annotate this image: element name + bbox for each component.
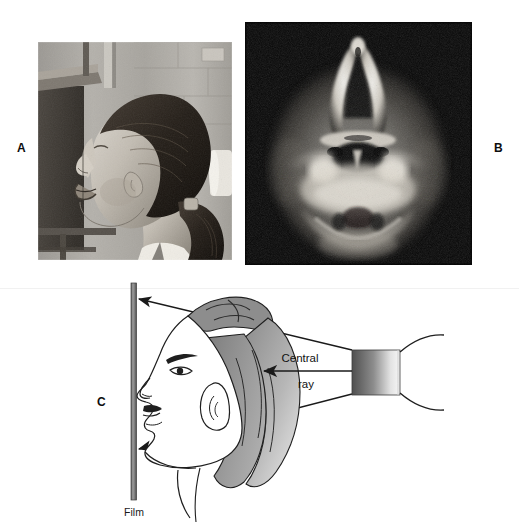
panel-label-a: A — [17, 141, 26, 155]
film-plate — [131, 283, 137, 500]
panel-label-c: C — [97, 395, 106, 409]
beam-geometry-diagram: Central ray Film — [0, 272, 519, 529]
head-profile-drawing — [137, 297, 300, 522]
submentovertex-radiograph — [245, 22, 472, 265]
panel-label-b: B — [494, 141, 503, 155]
central-ray-label-line1: Central — [281, 352, 318, 364]
film-label: Film — [124, 506, 144, 518]
panel-a-photograph — [38, 42, 232, 260]
xray-tube-head — [352, 335, 444, 410]
panel-b-radiograph — [245, 22, 472, 265]
figure-canvas: Central ray Film A B C — [0, 0, 519, 529]
central-ray-label-line2: ray — [298, 378, 314, 390]
panel-c-diagram: Central ray Film — [0, 272, 519, 529]
patient-positioning-photo — [38, 42, 232, 260]
